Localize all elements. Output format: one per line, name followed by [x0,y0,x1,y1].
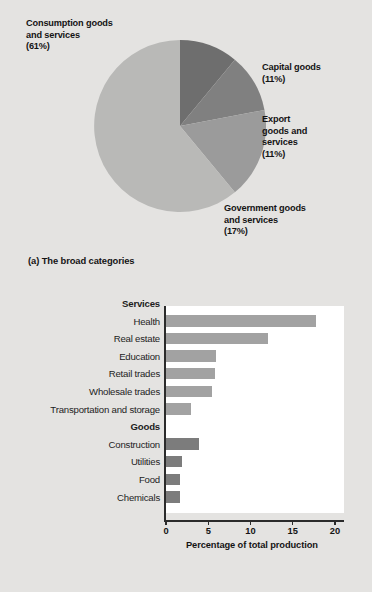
bar-transportation-and-storage [166,403,191,415]
pie-label-consumption-value: (61%) [26,41,151,53]
pie-label-export-goods: Export goods and services (11%) [262,114,342,160]
x-tick-20 [334,520,335,525]
bar-category-label-utilities: Utilities [0,456,160,467]
bar-group-heading-services: Services [0,298,160,309]
bar-wholesale-trades [166,386,212,398]
bar-utilities [166,456,182,468]
pie-label-export-line2: goods and [262,126,342,138]
pie-label-government-goods: Government goods and services (17%) [224,203,356,238]
x-tick-10 [250,520,251,525]
x-tick-label-10: 10 [238,526,264,536]
x-tick-label-15: 15 [280,526,306,536]
pie-label-government-line2: and services [224,215,356,227]
bar-category-label-food: Food [0,474,160,485]
bar-real-estate [166,333,268,345]
bar-chemicals [166,491,180,503]
bar-chart-x-axis [164,520,344,522]
bar-construction [166,438,199,450]
panel-broad-categories: Consumption goods and services (61%) Cap… [0,0,372,280]
bar-food [166,474,180,486]
pie-label-capital-line1: Capital goods [262,62,370,74]
bar-category-label-chemicals: Chemicals [0,492,160,503]
x-tick-label-5: 5 [195,526,221,536]
bar-group-heading-goods: Goods [0,421,160,432]
x-tick-label-20: 20 [322,526,348,536]
pie-chart-svg [94,40,266,212]
figure-root: Consumption goods and services (61%) Cap… [0,0,372,592]
panel-a-caption: (a) The broad categories [28,255,134,266]
bar-category-label-health: Health [0,316,160,327]
pie-label-export-line1: Export [262,114,342,126]
pie-label-capital-goods: Capital goods (11%) [262,62,370,85]
bar-category-label-transportation-and-storage: Transportation and storage [0,404,160,415]
bar-category-label-construction: Construction [0,439,160,450]
pie-label-capital-value: (11%) [262,74,370,86]
pie-label-government-line1: Government goods [224,203,356,215]
x-tick-5 [208,520,209,525]
x-tick-0 [165,520,166,525]
bar-category-label-retail-trades: Retail trades [0,368,160,379]
bar-chart-x-axis-title: Percentage of total production [186,540,318,550]
pie-label-government-value: (17%) [224,226,356,238]
bar-retail-trades [166,368,215,380]
panel-details: 05101520 ServicesHealthReal estateEducat… [0,284,372,592]
pie-label-export-line3: services [262,137,342,149]
bar-category-label-education: Education [0,351,160,362]
bar-category-label-real-estate: Real estate [0,333,160,344]
pie-label-consumption-goods: Consumption goods and services (61%) [26,18,151,53]
bar-category-label-wholesale-trades: Wholesale trades [0,386,160,397]
bar-education [166,350,216,362]
pie-chart [94,40,266,212]
bar-health [166,315,316,327]
x-tick-15 [292,520,293,525]
pie-label-export-value: (11%) [262,149,342,161]
pie-label-consumption-line1: Consumption goods [26,18,151,30]
x-tick-label-0: 0 [153,526,179,536]
pie-label-consumption-line2: and services [26,30,151,42]
